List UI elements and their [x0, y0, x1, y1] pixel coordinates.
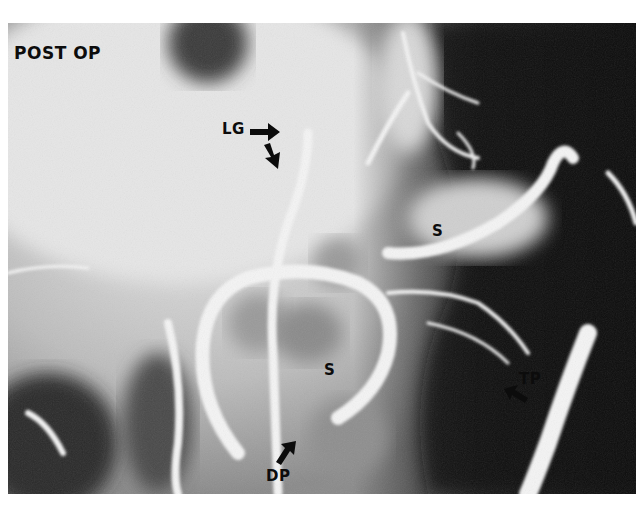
- angiogram-image: POST OP LG S S TP DP: [8, 23, 636, 494]
- s-upper-label: S: [432, 224, 443, 239]
- lg-label: LG: [222, 122, 245, 137]
- arrow-right-icon: [250, 123, 282, 141]
- post-op-label: POST OP: [14, 45, 101, 62]
- arrow-up-left-icon: [504, 385, 528, 405]
- s-lower-label: S: [324, 363, 335, 378]
- arrow-down-icon: [262, 143, 282, 169]
- arrow-up-right-icon: [276, 441, 296, 465]
- dp-label: DP: [266, 469, 290, 484]
- angiogram-background: [8, 23, 636, 494]
